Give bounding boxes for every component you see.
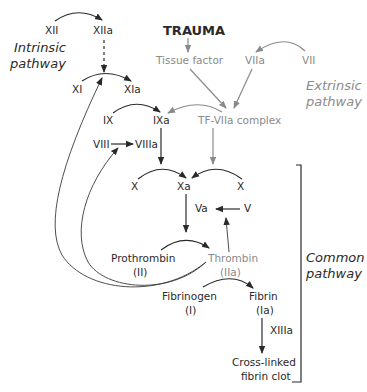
prothrombin-label: Prothrombin (111, 252, 175, 264)
tf-viia-complex: TF-VIIa complex (197, 114, 281, 126)
extrinsic-pathway-label-line1: Extrinsic (306, 78, 362, 93)
complex-to-ixa-arrow (168, 105, 222, 113)
fibrinogen-label: Fibrinogen (162, 290, 217, 302)
intrinsic-pathway-label-line2: pathway (9, 56, 66, 71)
xii-to-xiia-arrow (55, 13, 102, 21)
vii-to-viia-arrow (256, 42, 305, 52)
x-right-to-xa-arrow (192, 169, 242, 179)
factor-x-right: X (237, 180, 244, 192)
prothrombin-roman: (II) (133, 266, 147, 278)
factor-x-left: X (131, 180, 138, 192)
tissue-factor-to-complex-arrow (190, 69, 226, 108)
common-pathway-label-line1: Common (306, 250, 365, 265)
factor-ixa: IXa (153, 114, 170, 126)
factor-v: V (244, 202, 252, 214)
fibrin-roman: (Ia) (256, 304, 274, 316)
common-pathway-bracket (292, 165, 301, 382)
thrombin-roman: (IIa) (220, 266, 241, 278)
factor-viia: VIIa (245, 54, 265, 66)
factor-viiia: VIIIa (135, 138, 158, 150)
factor-va: Va (195, 202, 208, 214)
ix-to-ixa-arrow (113, 104, 160, 113)
thrombin-label: Thrombin (207, 252, 258, 264)
fibrinogen-roman: (I) (185, 304, 196, 316)
clot-label-line1: Cross-linked (232, 356, 296, 368)
xi-to-xia-arrow (82, 74, 131, 82)
factor-xii: XII (45, 24, 58, 36)
factor-xi: XI (72, 83, 82, 95)
common-pathway-label-line2: pathway (305, 266, 362, 281)
factor-xia: XIa (124, 83, 141, 95)
tissue-factor: Tissue factor (155, 54, 224, 66)
coagulation-cascade-diagram: XII XIIa Intrinsic pathway XI XIa IX IXa… (0, 0, 367, 392)
x-left-to-xa-arrow (138, 169, 186, 179)
factor-xiia: XIIa (93, 24, 113, 36)
factor-vii: VII (302, 54, 315, 66)
factor-ix: IX (103, 114, 113, 126)
prothrombin-to-thrombin-arrow (161, 240, 209, 250)
viia-to-complex-arrow (234, 69, 252, 108)
extrinsic-pathway-label-line2: pathway (305, 94, 362, 109)
fibrin-label: Fibrin (249, 290, 278, 302)
intrinsic-pathway-label-line1: Intrinsic (14, 40, 66, 55)
trauma-title: TRAUMA (163, 23, 225, 38)
factor-viii: VIII (93, 138, 109, 150)
factor-xiiia: XIIIa (270, 324, 293, 336)
thrombin-to-v-feedback-arrow (226, 218, 229, 252)
thrombin-to-viii-feedback-arrow (81, 148, 206, 285)
factor-xa: Xa (177, 180, 191, 192)
clot-label-line2: fibrin clot (241, 370, 291, 382)
fibrinogen-to-fibrin-arrow (203, 279, 253, 288)
